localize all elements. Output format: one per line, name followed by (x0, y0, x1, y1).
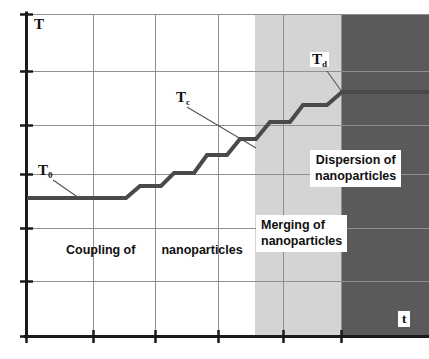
t0-leader-line (53, 180, 79, 198)
callout-dispersion: Dispersion of nanoparticles (310, 150, 401, 187)
x-axis-label: t (398, 311, 410, 327)
t0-label-base: T (38, 162, 48, 178)
callout-merging-line1: Merging of (261, 217, 342, 233)
callout-coupling-part2: nanoparticles (161, 243, 242, 257)
t0-label: T0 (38, 163, 53, 178)
td-label: Td (310, 52, 329, 67)
td-label-base: T (312, 51, 322, 67)
tc-label: Tc (176, 90, 190, 105)
t0-label-sub: 0 (48, 170, 53, 180)
callout-coupling: Coupling ofnanoparticles (66, 243, 243, 257)
y-axis-label: T (34, 16, 44, 33)
tc-label-base: T (176, 89, 186, 105)
td-label-sub: d (322, 59, 327, 69)
callout-merging-line2: nanoparticles (261, 233, 342, 249)
callout-dispersion-line2: nanoparticles (315, 168, 396, 184)
callout-merging: Merging of nanoparticles (256, 215, 347, 252)
callout-dispersion-line1: Dispersion of (315, 152, 396, 168)
tc-leader-line (187, 107, 256, 148)
chart-figure: T T0 Tc Td Dispersion of nanoparticles M… (0, 0, 429, 359)
tc-label-sub: c (186, 97, 190, 107)
callout-coupling-part1: Coupling of (66, 243, 135, 257)
